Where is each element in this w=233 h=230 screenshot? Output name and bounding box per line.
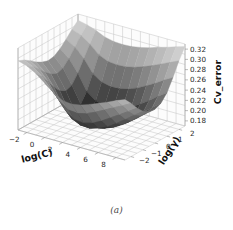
y-tick-mark: [167, 136, 170, 137]
x-tick-mark: [24, 133, 27, 135]
z-tick-label: 0.22: [190, 96, 206, 105]
z-tick-label: 0.28: [190, 65, 206, 74]
figure-caption: (a): [0, 205, 233, 215]
x-tick-mark: [113, 158, 116, 160]
y-tick-mark: [179, 129, 182, 130]
z-tick-label: 0.24: [190, 86, 206, 95]
y-tick-mark: [131, 157, 134, 158]
z-axis-label: Cv_error: [212, 59, 223, 104]
x-tick-label: −2: [9, 135, 20, 144]
y-tick-label: −2: [139, 156, 150, 165]
z-tick-label: 0.20: [190, 106, 206, 115]
y-tick-mark: [155, 143, 158, 144]
x-tick-mark: [77, 148, 80, 150]
x-tick-mark: [95, 153, 98, 155]
z-tick-label: 0.26: [190, 75, 206, 84]
z-tick-label: 0.30: [190, 55, 206, 64]
x-tick-mark: [41, 138, 44, 140]
z-tick-label: 0.32: [190, 45, 206, 54]
x-tick-label: 0: [30, 140, 35, 149]
surface-plot-figure: −202468−2−10120.180.200.220.240.260.280.…: [0, 0, 233, 230]
x-tick-mark: [59, 143, 62, 145]
x-tick-label: 4: [66, 150, 71, 159]
x-axis-label: log(C): [20, 146, 54, 164]
x-tick-label: 6: [83, 155, 88, 164]
y-tick-label: 2: [190, 129, 195, 138]
x-tick-label: 8: [101, 160, 106, 169]
z-tick-label: 0.18: [190, 116, 206, 125]
y-tick-mark: [143, 150, 146, 151]
